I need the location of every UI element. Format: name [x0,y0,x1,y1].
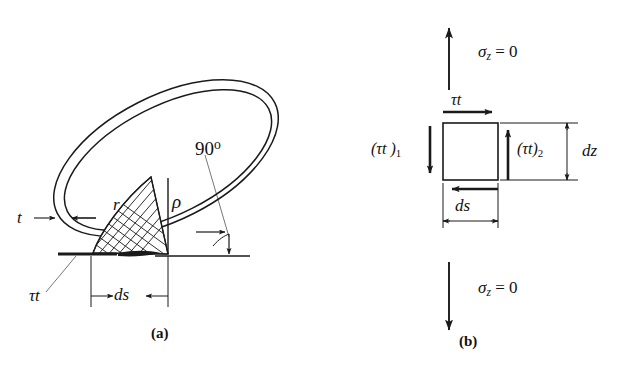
label-angle-90-degrees: 90o [195,138,221,158]
label-tau-t-top: τt [451,92,461,108]
sigma-value-bottom: = 0 [495,278,517,297]
label-sigma-z-top: σz = 0 [478,43,517,63]
label-tau-t-right: (τt)2 [517,141,543,159]
label-dz: dz [582,142,597,159]
angle-value: 90 [195,138,214,159]
wall-element-square [443,123,498,180]
label-thickness-t: t [17,209,22,226]
figure-linework [0,0,630,371]
label-rho: ρ [172,192,181,211]
panel-b-caption: (b) [459,334,477,349]
shear-flow-leader-line [46,256,76,292]
sigma-subscript-top: z [486,50,491,63]
figure-container: t r ρ 90o τt ds (a) σz = 0 τt (τt )1 (τt… [0,0,630,371]
tau-t-right-text: (τt) [517,140,538,157]
label-tau-t-left: (τt )1 [371,141,401,159]
tau-t-right-subscript: 2 [538,147,543,159]
panel-a-caption: (a) [151,326,169,341]
degree-symbol: o [214,137,221,152]
label-sigma-z-bottom: σz = 0 [478,279,517,299]
tau-t-left-text: (τt ) [371,140,396,157]
ds-dimension [91,256,168,307]
label-ds-b: ds [455,197,470,214]
sigma-value-top: = 0 [495,42,517,61]
tau-t-left-subscript: 1 [396,147,401,159]
sigma-subscript-bottom: z [486,286,491,299]
right-angle-marker [196,232,229,254]
label-radius-r: r [113,196,120,213]
label-shear-flow-tau-t: τt [29,287,40,304]
tube-outer-wall [29,47,303,268]
panel-a-linework [29,47,303,330]
label-ds-a: ds [114,286,129,303]
angle-leader-line [205,155,229,237]
hatched-area-element [48,166,212,330]
